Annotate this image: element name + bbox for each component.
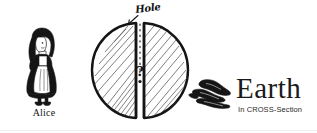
alice-figure-icon — [18, 24, 70, 106]
baseline-divider — [0, 130, 317, 131]
illustration-canvas: Alice — [0, 0, 317, 133]
ink-blot-icon — [188, 78, 232, 110]
earth-title: Earth — [236, 74, 301, 103]
alice-label: Alice — [14, 107, 74, 118]
hole-label: Hole — [135, 1, 161, 15]
earth-cross-section-icon: ? — [84, 18, 196, 123]
earth-center-marker: ? — [136, 64, 144, 79]
arrow-pointer-icon — [126, 14, 140, 28]
earth-subtitle: In CROSS-Section — [238, 105, 302, 114]
